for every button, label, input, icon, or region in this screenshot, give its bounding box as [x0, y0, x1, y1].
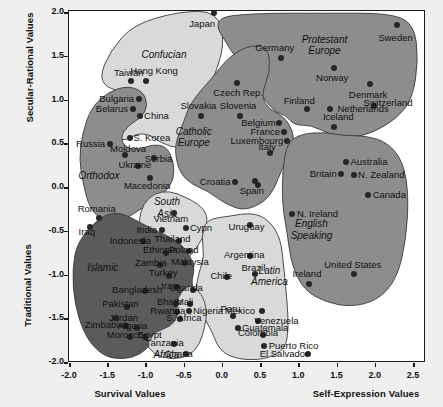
- country-label: Cypn: [190, 223, 212, 233]
- x-tick-2.0: 2.0: [360, 370, 390, 380]
- country-label: Ghana: [164, 349, 193, 359]
- country-label: Argentina: [224, 250, 265, 260]
- country-label: Croatia: [200, 177, 231, 187]
- x-axis-title-left: Survival Values: [70, 388, 190, 399]
- y-tick-mark: [64, 362, 68, 364]
- country-dot[interactable]: [136, 96, 142, 102]
- country-label: Thailand: [154, 234, 190, 244]
- group-label-confucian: Confucian: [141, 49, 186, 61]
- country-label: S. Korea: [133, 133, 170, 143]
- y-tick--1.0: -1.0: [36, 269, 64, 279]
- country-label: Czech Rep.: [213, 88, 263, 98]
- group-label-protestant-europe: ProtestantEurope: [302, 33, 348, 56]
- country-label: Spain: [240, 186, 264, 196]
- y-tick-0.5: 0.5: [36, 137, 64, 147]
- country-dot[interactable]: [338, 171, 344, 177]
- country-label: Turkey: [149, 268, 178, 278]
- x-tick-2.5: 2.5: [398, 370, 428, 380]
- y-tick--2.0: -2.0: [36, 356, 64, 366]
- y-axis-title-top: Secular-Rational Values: [24, 13, 35, 123]
- plot-area: ConfucianProtestantEuropeCatholicEuropeO…: [68, 10, 425, 362]
- country-label: El Salvador: [260, 349, 309, 359]
- x-tick-mark: [222, 363, 224, 367]
- country-dot[interactable]: [367, 81, 373, 87]
- x-tick-mark: [413, 363, 415, 367]
- group-label-line: Europe: [302, 45, 348, 57]
- group-label-orthodox: Orthodox: [78, 170, 119, 182]
- group-label-line: Catholic: [176, 125, 212, 137]
- group-label-line: Orthodox: [78, 170, 119, 182]
- x-axis-title-right: Self-Expression Values: [296, 388, 436, 399]
- country-dot[interactable]: [255, 182, 261, 188]
- y-tick-1.5: 1.5: [36, 50, 64, 60]
- country-dot[interactable]: [234, 80, 240, 86]
- country-dot[interactable]: [284, 138, 290, 144]
- y-tick-0.0: 0.0: [36, 181, 64, 191]
- country-dot[interactable]: [331, 124, 337, 130]
- country-label: Bangladesh: [112, 285, 162, 295]
- group-label-line: Islamic: [87, 262, 118, 274]
- country-label: Colombia: [238, 328, 278, 338]
- y-tick-1.0: 1.0: [36, 94, 64, 104]
- group-label-line: America: [251, 276, 288, 288]
- country-label: China: [144, 111, 169, 121]
- country-label: Belarus: [96, 104, 128, 114]
- country-label: Macedonia: [124, 181, 170, 191]
- country-label: Ireland: [292, 269, 321, 279]
- group-label-line: Confucian: [141, 49, 186, 61]
- country-label: Iceland: [323, 112, 354, 122]
- cultural-map-figure: Secular-Rational Values Traditional Valu…: [0, 0, 443, 407]
- country-label: Britain: [310, 169, 337, 179]
- group-label-line: Protestant: [302, 33, 348, 45]
- x-tick-1.0: 1.0: [283, 370, 313, 380]
- x-tick-mark: [184, 363, 186, 367]
- country-dot[interactable]: [394, 22, 400, 28]
- country-label: Slovenia: [220, 101, 256, 111]
- country-dot[interactable]: [289, 211, 295, 217]
- country-label: Romania: [78, 204, 116, 214]
- country-label: Poland: [169, 245, 199, 255]
- country-label: Russia: [76, 139, 105, 149]
- group-label-line: Europe: [176, 137, 212, 149]
- x-tick-mark: [145, 363, 147, 367]
- country-label: S. Africa: [166, 313, 201, 323]
- country-dot[interactable]: [259, 308, 265, 314]
- country-label: Tanzania: [146, 338, 184, 348]
- country-label: Moldova: [110, 144, 146, 154]
- country-label: Hong Kong: [130, 66, 178, 76]
- country-label: N. Zealand: [358, 170, 404, 180]
- x-tick--1.0: -1.0: [130, 370, 160, 380]
- country-dot[interactable]: [276, 120, 282, 126]
- country-dot[interactable]: [211, 10, 217, 16]
- country-dot[interactable]: [343, 159, 349, 165]
- y-tick-2.0: 2.0: [36, 6, 64, 16]
- group-label-line: Speaking: [291, 229, 333, 241]
- country-label: Uganda: [169, 283, 202, 293]
- country-dot[interactable]: [127, 135, 133, 141]
- country-label: Canada: [373, 190, 406, 200]
- x-tick-mark: [298, 363, 300, 367]
- country-dot[interactable]: [96, 215, 102, 221]
- country-dot[interactable]: [278, 55, 284, 61]
- country-label: Mexico: [225, 306, 255, 316]
- country-label: Chile: [210, 271, 232, 281]
- country-label: N. Ireland: [297, 209, 338, 219]
- country-label: Slovakia: [180, 101, 216, 111]
- x-tick--1.5: -1.5: [92, 370, 122, 380]
- country-label: Finland: [284, 96, 315, 106]
- x-tick-0.5: 0.5: [245, 370, 275, 380]
- country-label: Australia: [350, 157, 387, 167]
- y-axis-title-bottom: Traditional Values: [22, 231, 33, 341]
- country-label: Pakistan: [102, 299, 138, 309]
- country-label: Norway: [316, 73, 348, 83]
- country-label: Brazil: [242, 263, 266, 273]
- x-tick-mark: [337, 363, 339, 367]
- country-label: United States: [324, 260, 381, 270]
- x-tick-1.5: 1.5: [322, 370, 352, 380]
- country-label: Italy: [258, 142, 275, 152]
- group-label-islamic: Islamic: [87, 262, 118, 274]
- x-tick-0.0: 0.0: [207, 370, 237, 380]
- x-tick-mark: [375, 363, 377, 367]
- country-label: Malaysia: [171, 257, 209, 267]
- country-label: Germany: [255, 43, 294, 53]
